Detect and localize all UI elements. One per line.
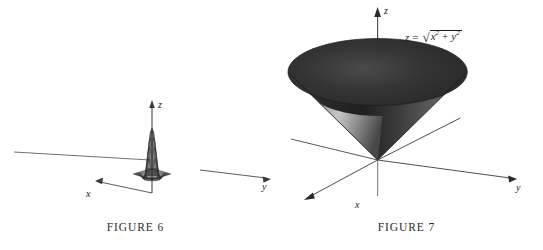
equation-radical-group: √x2+y2 [422,30,462,43]
figure-6-panel: x y z FIGURE 6 [0,0,271,250]
figure-7-z-arrowhead [374,7,381,17]
equation-operator: + [439,30,451,42]
figure-6-y-axis-front [200,170,266,178]
equation-relation: = [409,31,421,43]
equation-radicand: x2+y2 [430,30,462,42]
figure-6-graphic [0,0,271,215]
figure-6-x-arrowhead [95,178,103,185]
figure-7-x-axis [311,160,378,196]
figure-6-z-arrowhead [149,100,155,108]
figure-6-y-axis-label: y [262,182,266,192]
equation-term-2-exponent: 2 [456,29,460,37]
radical-sign: √ [423,30,430,45]
figure-7-z-axis-label: z [384,6,388,16]
figure-pair-page: x y z FIGURE 6 [0,0,543,250]
figure-7-y-axis-label: y [516,183,520,193]
figure-7-cone-cap [288,39,467,106]
figure-6-z-axis-label: z [158,100,162,110]
figure-6-y-axis-back [14,152,150,160]
figure-7-equation: z=√x2+y2 [405,30,462,43]
figure-7-y-axis [378,160,511,178]
figure-7-x-arrowhead [304,193,315,201]
figure-6-caption: FIGURE 6 [0,221,271,233]
figure-6-x-axis [100,182,152,193]
figure-7-caption: FIGURE 7 [271,221,542,233]
figure-7-x-axis-label: x [355,200,359,210]
figure-7-panel: x y z z=√x2+y2 FIGURE 7 [271,0,542,250]
figure-6-x-axis-label: x [86,189,90,199]
